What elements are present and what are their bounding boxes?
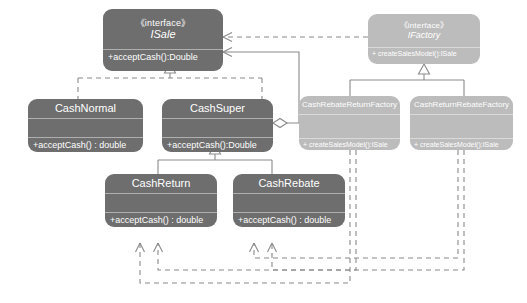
isale-name: ISale <box>150 28 175 41</box>
class-box-isale[interactable]: 《interface》 ISale +acceptCash():Double <box>103 9 223 71</box>
edge-realization-ifactory <box>350 64 464 96</box>
cashreturn-attributes <box>105 194 217 212</box>
cashrebate-name: CashRebate <box>258 177 319 190</box>
cashrebatereturnfactory-attributes <box>299 115 400 138</box>
edge-dependency-ifactory-isale <box>223 33 368 42</box>
cashrebate-header: CashRebate <box>233 174 345 193</box>
cashreturnrebatefactory-header: CashReturnRebateFactory <box>410 96 513 114</box>
cashreturn-name: CashReturn <box>132 177 191 190</box>
cashsuper-name: CashSuper <box>190 102 245 115</box>
cashrebatereturnfactory-operation: + createSalesModel():ISale <box>299 139 400 150</box>
cashsuper-header: CashSuper <box>162 99 273 118</box>
cashnormal-attributes <box>28 119 143 137</box>
class-box-cashreturn[interactable]: CashReturn +acceptCash() : double <box>105 174 217 227</box>
cashreturn-header: CashReturn <box>105 174 217 193</box>
hollow-diamond-cashsuper <box>273 119 287 128</box>
class-box-cashrebate[interactable]: CashRebate +acceptCash() : double <box>233 174 345 227</box>
uml-class-diagram: 《interface》 ISale +acceptCash():Double 《… <box>0 0 527 303</box>
cashrebate-operation: +acceptCash() : double <box>233 213 345 227</box>
cashreturnrebatefactory-operation: + createSalesModel():ISale <box>410 139 513 150</box>
cashreturnrebatefactory-attributes <box>410 115 513 138</box>
class-box-ifactory[interactable]: 《interface》 IFactory + createSalesModel(… <box>368 14 480 64</box>
dependency-arrowheads <box>136 243 277 252</box>
cashrebate-attributes <box>233 194 345 212</box>
class-box-cashreturnrebatefactory[interactable]: CashReturnRebateFactory + createSalesMod… <box>410 96 513 150</box>
hollow-triangle-ifactory <box>419 64 430 74</box>
cashsuper-operation: +acceptCash():Double <box>162 138 273 152</box>
ifactory-operation: + createSalesModel():ISale <box>368 48 480 59</box>
ifactory-stereotype: 《interface》 <box>400 21 449 30</box>
ifactory-name: IFactory <box>408 30 441 40</box>
cashrebatereturnfactory-header: CashRebateReturnFactory <box>299 96 400 114</box>
cashreturn-operation: +acceptCash() : double <box>105 213 217 227</box>
isale-stereotype: 《interface》 <box>136 18 191 28</box>
class-box-cashnormal[interactable]: CashNormal +acceptCash() : double <box>28 99 143 152</box>
cashnormal-operation: +acceptCash() : double <box>28 138 143 152</box>
class-box-cashsuper[interactable]: CashSuper +acceptCash():Double <box>162 99 273 152</box>
cashrebatereturnfactory-name: CashRebateReturnFactory <box>302 100 397 109</box>
ifactory-header: 《interface》 IFactory <box>368 14 480 47</box>
cashnormal-header: CashNormal <box>28 99 143 118</box>
cashnormal-name: CashNormal <box>55 102 116 115</box>
isale-operation: +acceptCash():Double <box>103 50 223 64</box>
cashsuper-attributes <box>162 119 273 137</box>
class-box-cashrebatereturnfactory[interactable]: CashRebateReturnFactory + createSalesMod… <box>299 96 400 150</box>
cashreturnrebatefactory-name: CashReturnRebateFactory <box>414 100 509 109</box>
isale-header: 《interface》 ISale <box>103 9 223 49</box>
